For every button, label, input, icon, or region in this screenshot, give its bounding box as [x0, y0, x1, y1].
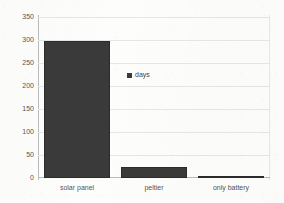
x-axis-tick-label: solar panel	[44, 183, 110, 192]
y-axis-tick-label: 200	[4, 82, 34, 90]
legend-label-days: days	[135, 71, 150, 79]
bar-slot-solar-panel	[44, 17, 110, 178]
y-axis-tick-label: 250	[4, 59, 34, 67]
bar-solar-panel	[44, 41, 110, 178]
x-axis-tick-label: peltier	[121, 183, 187, 192]
bar-slot-peltier	[121, 17, 187, 178]
bar-only-battery	[198, 176, 264, 178]
y-axis-tick-label: 150	[4, 105, 34, 113]
bar-chart: 0 50 100 150 200 250 300 350 days	[0, 0, 284, 203]
x-axis-tick-label: only battery	[198, 183, 264, 192]
x-axis-tick-labels: solar panel peltier only battery	[38, 183, 270, 197]
legend-swatch-icon	[127, 73, 132, 78]
y-axis-tick-label: 50	[4, 151, 34, 159]
y-axis-tick-label: 100	[4, 128, 34, 136]
legend: days	[127, 71, 150, 79]
y-axis-tick-label: 0	[4, 174, 34, 182]
bar-peltier	[121, 167, 187, 178]
plot-area	[38, 17, 270, 178]
bar-slot-only-battery	[198, 17, 264, 178]
y-axis-tick-labels: 0 50 100 150 200 250 300 350	[0, 17, 34, 178]
y-axis-tick-label: 350	[4, 13, 34, 21]
y-axis-tick-label: 300	[4, 36, 34, 44]
